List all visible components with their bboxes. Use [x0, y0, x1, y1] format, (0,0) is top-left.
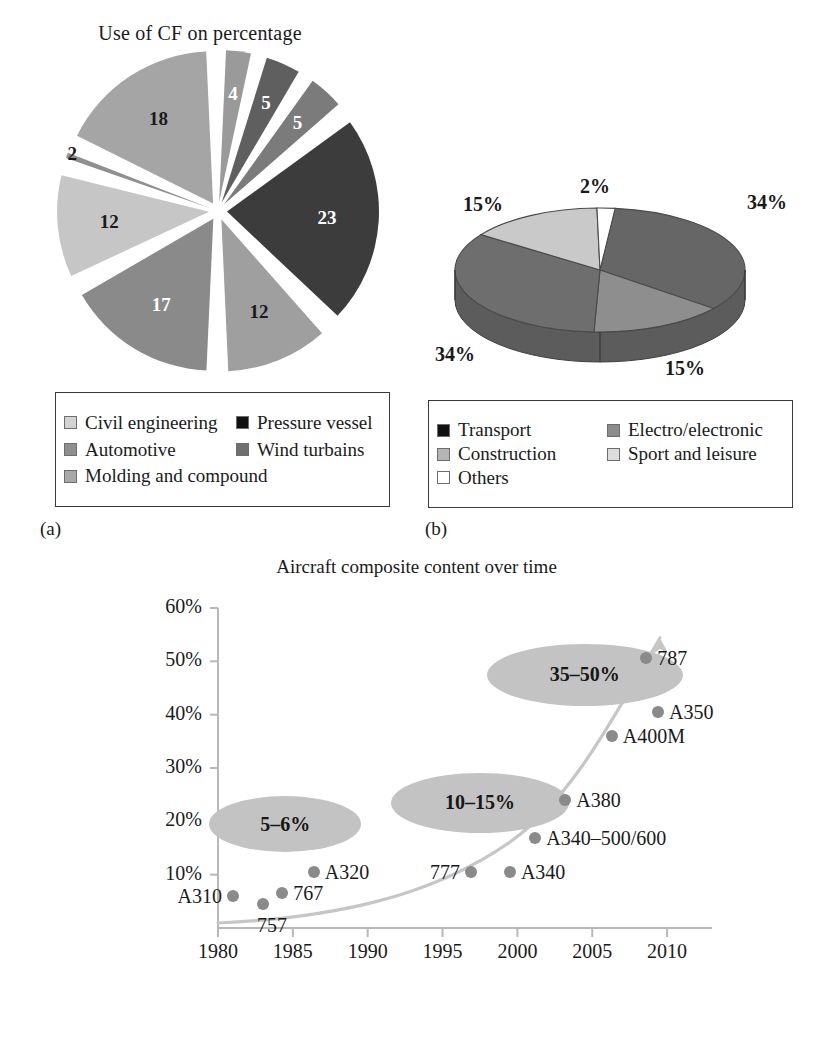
panel-c: Aircraft composite content over time 10%…	[0, 540, 833, 1042]
data-point[interactable]	[640, 652, 652, 664]
chart-c-title: Aircraft composite content over time	[0, 556, 833, 578]
data-point[interactable]	[308, 866, 320, 878]
annotation-label: 10–15%	[445, 791, 515, 814]
pie-b-label-lower-left: 34%	[435, 343, 475, 366]
legend-swatch-icon	[64, 443, 77, 456]
legend-panel-a: Civil engineeringPressure vesselAutomoti…	[55, 392, 390, 507]
legend-label: Electro/electronic	[628, 420, 763, 440]
legend-b-item[interactable]: Transport	[437, 420, 607, 440]
pie-a-slice-label: 17	[152, 294, 172, 315]
data-point-label: A350	[669, 701, 713, 724]
data-point[interactable]	[559, 794, 571, 806]
y-axis-tick-label: 10%	[140, 862, 202, 885]
y-axis-tick-label: 50%	[140, 648, 202, 671]
legend-swatch-icon	[236, 443, 249, 456]
data-point[interactable]	[529, 832, 541, 844]
caption-a: (a)	[40, 518, 61, 540]
chart-c-plot: 10%20%30%40%50%60%1980198519901995200020…	[0, 580, 833, 1000]
pie-a-slice-label: 12	[100, 211, 119, 232]
legend-b-item[interactable]: Sport and leisure	[607, 444, 786, 464]
pie-a-title: Use of CF on percentage	[0, 22, 400, 45]
pie-a-chart: 45523121712218	[48, 48, 388, 378]
legend-b-item[interactable]: Electro/electronic	[607, 420, 786, 440]
pie-a-slice-label: 5	[261, 92, 271, 113]
data-point-label: 767	[293, 882, 323, 905]
data-point-label: 757	[257, 914, 287, 937]
pie-a-slice	[77, 52, 213, 204]
legend-swatch-icon	[437, 471, 450, 484]
data-point[interactable]	[465, 866, 477, 878]
annotation-blob: 35–50%	[487, 644, 683, 706]
legend-a-item[interactable]: Civil engineering	[64, 413, 236, 433]
x-axis-tick-label: 2000	[485, 940, 549, 963]
x-axis-tick-label: 2010	[635, 940, 699, 963]
annotation-blob: 10–15%	[391, 773, 569, 833]
x-axis-tick-label: 1980	[186, 940, 250, 963]
x-axis-tick-label: 1995	[411, 940, 475, 963]
legend-a-item[interactable]: Pressure vessel	[236, 413, 383, 433]
data-point-label: A340	[521, 861, 565, 884]
legend-label: Automotive	[85, 440, 176, 460]
data-point[interactable]	[504, 866, 516, 878]
data-point[interactable]	[606, 730, 618, 742]
legend-label: Pressure vessel	[257, 413, 373, 433]
x-axis-tick-label: 2005	[560, 940, 624, 963]
panel-b: 34% 15% 2% 34% 15% TransportElectro/elec…	[415, 0, 833, 540]
data-point-label: A380	[576, 789, 620, 812]
pie-b-label-upper-left: 15%	[463, 193, 503, 216]
legend-label: Sport and leisure	[628, 444, 757, 464]
pie-a-slice-label: 2	[68, 143, 78, 164]
pie-b-label-right: 34%	[747, 191, 787, 214]
data-point[interactable]	[652, 706, 664, 718]
legend-swatch-icon	[607, 448, 620, 461]
data-point-label: A320	[325, 861, 369, 884]
legend-label: Wind turbains	[257, 440, 364, 460]
data-point-label: 777	[430, 861, 460, 884]
pie-b-label-lower-right: 15%	[665, 357, 705, 380]
panel-a: Use of CF on percentage 45523121712218 C…	[0, 0, 420, 540]
data-point[interactable]	[276, 887, 288, 899]
data-point[interactable]	[227, 890, 239, 902]
annotation-blob: 5–6%	[209, 796, 361, 852]
legend-swatch-icon	[64, 416, 77, 429]
legend-a-item[interactable]: Wind turbains	[236, 440, 383, 460]
legend-label: Construction	[458, 444, 556, 464]
legend-label: Transport	[458, 420, 531, 440]
legend-swatch-icon	[236, 416, 249, 429]
data-point-label: A340–500/600	[546, 827, 666, 850]
legend-swatch-icon	[437, 424, 450, 437]
legend-label: Civil engineering	[85, 413, 217, 433]
y-axis-tick-label: 30%	[140, 755, 202, 778]
x-axis-tick-label: 1990	[336, 940, 400, 963]
y-axis-tick-label: 60%	[140, 595, 202, 618]
y-axis-tick-label: 20%	[140, 808, 202, 831]
pie-b-chart: 34% 15% 2% 34% 15%	[425, 175, 825, 375]
annotation-label: 35–50%	[550, 663, 620, 686]
legend-swatch-icon	[437, 448, 450, 461]
annotation-label: 5–6%	[260, 813, 310, 836]
y-axis-tick-label: 40%	[140, 702, 202, 725]
legend-swatch-icon	[64, 470, 77, 483]
pie-a-svg: 45523121712218	[48, 48, 388, 378]
data-point[interactable]	[257, 898, 269, 910]
data-point-label: 787	[657, 646, 687, 669]
pie-b-label-top: 2%	[580, 175, 610, 198]
pie-a-slice-label: 5	[293, 112, 303, 133]
legend-panel-b: TransportElectro/electronicConstructionS…	[428, 400, 793, 508]
legend-a-item[interactable]: Molding and compound	[64, 466, 236, 486]
legend-b-item[interactable]: Construction	[437, 444, 607, 464]
legend-a-item[interactable]: Automotive	[64, 440, 236, 460]
pie-a-slice-label: 18	[149, 108, 168, 129]
pie-a-slice-label: 12	[250, 301, 269, 322]
caption-b: (b)	[425, 518, 447, 540]
pie-a-slice-label: 4	[228, 83, 238, 104]
data-point-label: A400M	[623, 725, 685, 748]
legend-label: Molding and compound	[85, 466, 268, 486]
x-axis-tick-label: 1985	[261, 940, 325, 963]
legend-label: Others	[458, 468, 509, 488]
data-point-label: A310	[178, 885, 222, 908]
legend-swatch-icon	[607, 424, 620, 437]
legend-b-item[interactable]: Others	[437, 468, 607, 488]
pie-a-slice-label: 23	[318, 207, 337, 228]
